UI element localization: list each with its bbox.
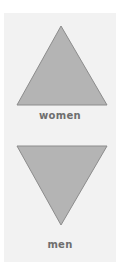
women-label: women: [4, 110, 116, 121]
men-label: men: [4, 239, 116, 250]
triangle-up-icon: [4, 25, 116, 109]
triangle-down-icon: [4, 145, 116, 229]
men-symbol: [4, 145, 116, 229]
gender-legend-panel: women men: [4, 13, 116, 262]
women-symbol: [4, 25, 116, 109]
